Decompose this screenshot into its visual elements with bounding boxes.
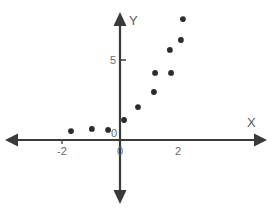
y-tick-label-5: 5 xyxy=(110,55,116,66)
x-tick-label-neg2: -2 xyxy=(57,146,67,157)
x-tick-label-2: 2 xyxy=(175,146,181,157)
x-tick-label-0: 0 xyxy=(117,146,123,157)
data-point xyxy=(68,128,74,134)
data-point xyxy=(151,89,157,95)
data-points-group xyxy=(68,16,186,134)
plot-canvas xyxy=(0,0,275,214)
scatter-plot-figure: X Y 5 -2 0 2 0 xyxy=(0,0,275,214)
data-point xyxy=(168,70,174,76)
x-axis-label: X xyxy=(247,116,256,129)
y-axis-arrow-up-icon xyxy=(114,12,127,26)
y-axis-label: Y xyxy=(129,14,138,27)
data-point xyxy=(178,37,184,43)
data-point xyxy=(121,117,127,123)
x-axis-arrow-left-icon xyxy=(5,134,18,147)
y-axis-arrow-down-icon xyxy=(114,190,127,204)
origin-marker-label: 0 xyxy=(111,128,117,139)
data-point xyxy=(167,47,173,53)
data-point xyxy=(180,16,186,22)
data-point xyxy=(89,126,95,132)
data-point xyxy=(135,104,141,110)
x-axis-arrow-right-icon xyxy=(254,134,267,147)
data-point xyxy=(152,70,158,76)
